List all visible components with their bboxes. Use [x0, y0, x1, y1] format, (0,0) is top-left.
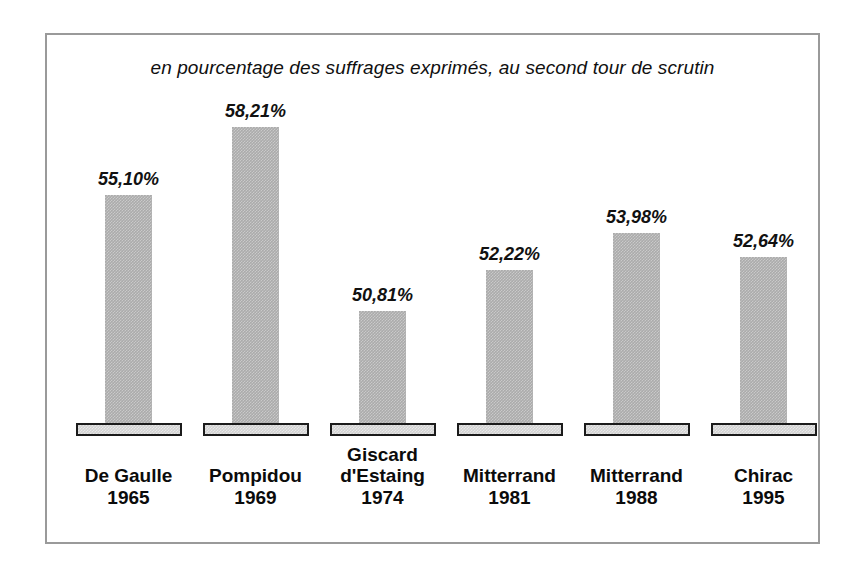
- bar-rect: [359, 311, 406, 424]
- bar-column: 53,98%: [573, 0, 700, 424]
- chart-frame: en pourcentage des suffrages exprimés, a…: [45, 33, 820, 544]
- bar-group[interactable]: 55,10% De Gaulle 1965: [65, 35, 192, 546]
- bar-caption-name: De Gaulle: [65, 465, 192, 486]
- plot-area: 55,10% De Gaulle 1965 58,21% Pompidou 19…: [47, 35, 822, 546]
- bar-value-label: 58,21%: [225, 101, 286, 122]
- bar-caption-year: 1969: [192, 487, 319, 508]
- bar-column: 55,10%: [65, 0, 192, 424]
- bar-base-plate: [76, 423, 182, 436]
- bar-group[interactable]: 53,98% Mitterrand 1988: [573, 35, 700, 546]
- bar-caption: Mitterrand 1988: [573, 465, 700, 508]
- bar-caption-year: 1988: [573, 487, 700, 508]
- bar-caption-name: Mitterrand: [446, 465, 573, 486]
- bar-group[interactable]: 58,21% Pompidou 1969: [192, 35, 319, 546]
- bar-caption-name: Giscard d'Estaing: [319, 444, 446, 487]
- bar-value-label: 53,98%: [606, 207, 667, 228]
- bar-base-plate: [203, 423, 309, 436]
- bar-base-plate: [457, 423, 563, 436]
- bar-caption-name: Pompidou: [192, 465, 319, 486]
- bar-caption-year: 1995: [700, 487, 827, 508]
- bar-rect: [486, 270, 533, 424]
- bar-caption: Giscard d'Estaing 1974: [319, 444, 446, 508]
- bar-group[interactable]: 50,81% Giscard d'Estaing 1974: [319, 35, 446, 546]
- bar-caption-name: Mitterrand: [573, 465, 700, 486]
- bar-value-label: 50,81%: [352, 285, 413, 306]
- bar-column: 58,21%: [192, 0, 319, 424]
- bar-column: 50,81%: [319, 0, 446, 424]
- bar-value-label: 52,64%: [733, 231, 794, 252]
- bar-caption-name: Chirac: [700, 465, 827, 486]
- bar-base-plate: [330, 423, 436, 436]
- bar-base-plate: [711, 423, 817, 436]
- bar-value-label: 55,10%: [98, 169, 159, 190]
- bar-caption: De Gaulle 1965: [65, 465, 192, 508]
- bar-caption-year: 1965: [65, 487, 192, 508]
- bar-caption-year: 1981: [446, 487, 573, 508]
- bar-group[interactable]: 52,64% Chirac 1995: [700, 35, 827, 546]
- bar-base-plate: [584, 423, 690, 436]
- bar-group[interactable]: 52,22% Mitterrand 1981: [446, 35, 573, 546]
- bar-rect: [232, 127, 279, 424]
- chart-root: en pourcentage des suffrages exprimés, a…: [0, 0, 853, 564]
- bar-value-label: 52,22%: [479, 244, 540, 265]
- bar-caption-year: 1974: [319, 487, 446, 508]
- bar-rect: [740, 257, 787, 424]
- bar-rect: [613, 233, 660, 424]
- bar-rect: [105, 195, 152, 424]
- bar-column: 52,64%: [700, 0, 827, 424]
- bar-caption: Chirac 1995: [700, 465, 827, 508]
- bar-column: 52,22%: [446, 0, 573, 424]
- bar-caption: Mitterrand 1981: [446, 465, 573, 508]
- bar-caption: Pompidou 1969: [192, 465, 319, 508]
